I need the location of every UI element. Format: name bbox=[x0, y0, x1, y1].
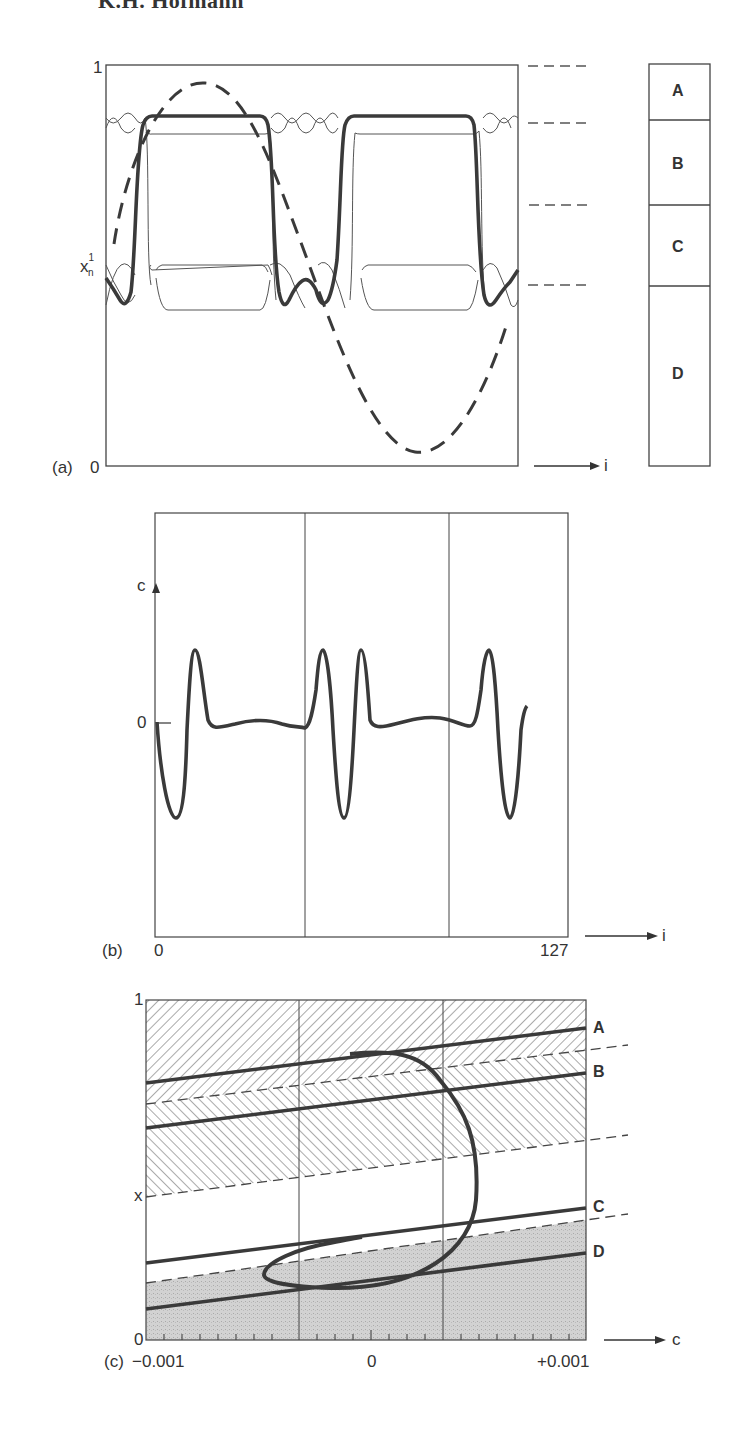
panel-c-plot bbox=[0, 0, 744, 1435]
line-label-c: C bbox=[593, 1198, 605, 1216]
line-label-b: B bbox=[593, 1063, 605, 1081]
panel-c-y-top-label: 1 bbox=[134, 990, 143, 1010]
panel-c-x-mid-label: 0 bbox=[367, 1352, 376, 1372]
line-label-a: A bbox=[593, 1019, 605, 1037]
panel-c-x-axis-label: c bbox=[672, 1330, 681, 1350]
panel-c-y-bottom-label: 0 bbox=[134, 1330, 143, 1350]
panel-c-tag: (c) bbox=[104, 1352, 124, 1372]
panel-c-x-left-label: −0.001 bbox=[132, 1352, 184, 1372]
panel-c-x-right-label: +0.001 bbox=[537, 1352, 589, 1372]
line-label-d: D bbox=[593, 1243, 605, 1261]
panel-c-y-axis-label: x bbox=[134, 1186, 143, 1206]
